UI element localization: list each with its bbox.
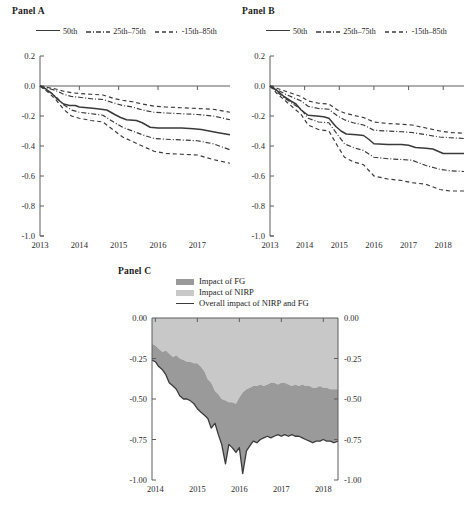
svg-text:-1.00: -1.00 — [130, 476, 147, 485]
svg-text:0.0: 0.0 — [24, 81, 35, 91]
panel-c-legend-item-fg: Impact of FG — [176, 276, 309, 287]
panel-c-plot: 0.000.00-0.25-0.25-0.50-0.50-0.75-0.75-1… — [110, 310, 378, 515]
panel-b-legend-label-0: 50th — [293, 27, 307, 36]
panel-b-legend-item-15-85: -15th–85th — [385, 26, 447, 36]
panel-c: Panel C Impact of FG Impact of NIRP Over… — [110, 264, 378, 519]
panel-b-legend-item-50th: 50th — [266, 26, 307, 36]
panel-a-legend-item-15-85: -15th–85th — [155, 26, 217, 36]
panel-a-plot: 0.20.0-0.2-0.4-0.6-0.8-1.020132014201520… — [0, 46, 234, 261]
panel-c-legend: Impact of FG Impact of NIRP Overall impa… — [176, 276, 309, 309]
svg-text:2017: 2017 — [273, 485, 290, 494]
panel-a-legend-label-2: -15th–85th — [182, 27, 217, 36]
svg-text:2013: 2013 — [31, 240, 48, 250]
panel-b-legend-label-1: 25th–75th — [343, 27, 375, 36]
panel-c-legend-label-0: Impact of FG — [199, 276, 245, 287]
svg-text:2016: 2016 — [149, 240, 167, 250]
svg-text:2014: 2014 — [296, 240, 314, 250]
panel-c-legend-label-1: Impact of NIRP — [199, 287, 254, 298]
svg-text:2015: 2015 — [331, 240, 348, 250]
solid-line-icon — [36, 30, 60, 31]
svg-text:-0.25: -0.25 — [130, 355, 147, 364]
svg-text:2015: 2015 — [189, 485, 206, 494]
panel-c-legend-item-overall: Overall impact of NIRP and FG — [176, 298, 309, 309]
svg-text:-0.4: -0.4 — [251, 141, 265, 151]
panel-a-legend-item-50th: 50th — [36, 26, 77, 36]
panel-c-legend-item-nirp: Impact of NIRP — [176, 287, 309, 298]
panel-a: Panel A 50th 25th–75th -15th–85th 0.20.0… — [0, 0, 234, 262]
area-swatch-nirp-icon — [176, 290, 194, 296]
svg-text:2017: 2017 — [400, 240, 418, 250]
panel-a-legend-item-25-75: 25th–75th — [86, 26, 145, 36]
svg-text:0.00: 0.00 — [132, 314, 147, 323]
panel-a-legend: 50th 25th–75th -15th–85th — [36, 26, 217, 36]
svg-text:-0.25: -0.25 — [344, 355, 361, 364]
panel-c-title: Panel C — [118, 266, 151, 276]
svg-text:0.2: 0.2 — [24, 51, 35, 61]
solid-line-icon — [176, 303, 194, 304]
svg-text:2018: 2018 — [435, 240, 452, 250]
panel-b: Panel B 50th 25th–75th -15th–85th 0.20.0… — [232, 0, 469, 262]
panel-a-legend-label-0: 50th — [63, 27, 77, 36]
solid-line-icon — [266, 30, 290, 31]
svg-text:-0.50: -0.50 — [130, 395, 147, 404]
figure-root: { "figure": { "panels": ["Panel A", "Pan… — [0, 0, 469, 519]
svg-text:2016: 2016 — [231, 485, 248, 494]
svg-text:0.2: 0.2 — [254, 51, 265, 61]
panel-b-legend-label-2: -15th–85th — [412, 27, 447, 36]
svg-text:-0.75: -0.75 — [344, 436, 361, 445]
panel-b-title: Panel B — [242, 6, 275, 16]
svg-text:2013: 2013 — [261, 240, 278, 250]
panel-a-legend-label-1: 25th–75th — [113, 27, 145, 36]
panel-c-legend-label-2: Overall impact of NIRP and FG — [199, 298, 309, 309]
svg-text:2018: 2018 — [315, 485, 332, 494]
panel-b-plot: 0.20.0-0.2-0.4-0.6-0.8-1.020132014201520… — [232, 46, 469, 261]
svg-text:-0.75: -0.75 — [130, 436, 147, 445]
svg-text:2014: 2014 — [71, 240, 89, 250]
svg-text:-0.8: -0.8 — [21, 201, 35, 211]
svg-text:-0.6: -0.6 — [21, 171, 35, 181]
svg-text:-0.6: -0.6 — [251, 171, 265, 181]
svg-text:2016: 2016 — [365, 240, 383, 250]
svg-text:2014: 2014 — [147, 485, 165, 494]
svg-text:-0.4: -0.4 — [21, 141, 35, 151]
svg-text:-0.2: -0.2 — [251, 111, 265, 121]
svg-text:0.0: 0.0 — [254, 81, 265, 91]
svg-text:2017: 2017 — [189, 240, 207, 250]
panel-b-legend-item-25-75: 25th–75th — [316, 26, 375, 36]
svg-text:2015: 2015 — [110, 240, 127, 250]
panel-a-title: Panel A — [12, 6, 45, 16]
panel-b-legend: 50th 25th–75th -15th–85th — [266, 26, 447, 36]
svg-text:-0.50: -0.50 — [344, 395, 361, 404]
svg-text:-1.00: -1.00 — [344, 476, 361, 485]
svg-text:-0.2: -0.2 — [21, 111, 35, 121]
area-swatch-fg-icon — [176, 279, 194, 285]
svg-text:0.00: 0.00 — [344, 314, 359, 323]
svg-text:-0.8: -0.8 — [251, 201, 265, 211]
